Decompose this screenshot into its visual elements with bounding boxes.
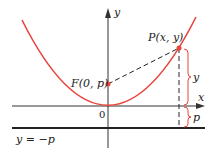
origin-label: 0 xyxy=(99,109,105,120)
focus-to-point-dashed xyxy=(108,48,179,84)
x-axis-label: x xyxy=(198,91,205,104)
focus-label: F(0, p) xyxy=(70,77,108,90)
brace-y-label: y xyxy=(192,71,200,84)
brace-p xyxy=(184,107,191,127)
y-axis-label: y xyxy=(113,6,121,19)
brace-p-label: p xyxy=(193,111,200,124)
parabola-diagram: y x 0 F(0, p) P(x, y) y p y = −p xyxy=(0,0,214,155)
point-label: P(x, y) xyxy=(147,31,183,44)
brace-y xyxy=(184,49,191,105)
point-p xyxy=(177,46,182,51)
directrix-label: y = −p xyxy=(15,133,55,146)
